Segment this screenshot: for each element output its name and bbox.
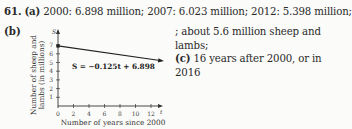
line-arrow-icon (158, 58, 164, 62)
svg-text:4: 4 (87, 110, 91, 117)
svg-text:6: 6 (49, 50, 53, 57)
svg-text:3: 3 (49, 76, 53, 83)
x-axis-title: Number of years since 2000 (61, 118, 166, 127)
y-axis-arrow-icon (56, 29, 60, 34)
svg-text:5: 5 (49, 59, 53, 66)
y-axis-title: Number of sheep and lambs (in millions) (29, 35, 46, 115)
svg-text:12: 12 (147, 110, 155, 117)
svg-text:2: 2 (72, 110, 76, 117)
svg-text:8: 8 (118, 110, 122, 117)
data-line (58, 46, 160, 61)
equation-label: S = −0.125t + 6.898 (72, 62, 155, 71)
svg-text:7: 7 (49, 41, 53, 48)
svg-text:10: 10 (132, 110, 140, 117)
svg-text:1: 1 (49, 93, 53, 100)
start-point-marker (56, 44, 59, 47)
x-axis-var: t (160, 108, 163, 115)
svg-text:lambs (in millions): lambs (in millions) (37, 41, 46, 110)
svg-text:4: 4 (49, 67, 53, 74)
y-axis-var: S (52, 28, 56, 35)
svg-text:6: 6 (103, 110, 107, 117)
svg-text:0: 0 (56, 110, 60, 117)
svg-text:2: 2 (49, 85, 53, 92)
